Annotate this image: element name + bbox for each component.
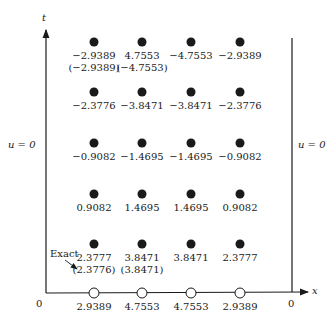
grid-node-dot: [236, 38, 245, 47]
origin-right-label: 0: [288, 298, 294, 309]
initial-node-circle: [235, 288, 245, 298]
node-value-label: 3.8471: [125, 252, 160, 263]
node-value-label: −3.8471: [169, 100, 212, 111]
exact-value-label: (3.8471): [121, 264, 164, 275]
node-value-label: −4.7553: [169, 50, 212, 61]
grid-node-dot: [138, 240, 147, 249]
grid-node-dot: [236, 88, 245, 97]
initial-node-circle: [137, 288, 147, 298]
grid-node-dot: [187, 139, 196, 148]
grid-node-dot: [187, 240, 196, 249]
initial-value-label: 2.9389: [223, 301, 258, 312]
grid-node-dot: [236, 139, 245, 148]
node-value-label: −0.9082: [218, 151, 261, 162]
node-value-label: 4.7553: [125, 50, 160, 61]
node-value-label: −0.9082: [72, 151, 115, 162]
node-value-label: −2.3776: [218, 100, 261, 111]
node-value-label: −1.4695: [169, 151, 212, 162]
grid-node-dot: [138, 190, 147, 199]
grid-node-dot: [138, 139, 147, 148]
x-axis-label: x: [312, 285, 318, 296]
node-value-label: −2.9389: [72, 50, 115, 61]
grid-node-dot: [90, 88, 99, 97]
grid-node-dot: [90, 38, 99, 47]
initial-value-label: 4.7553: [174, 301, 209, 312]
exact-value-label: (−4.7553): [116, 62, 167, 73]
initial-node-circle: [186, 288, 196, 298]
node-value-label: 0.9082: [223, 202, 258, 213]
node-value-label: 3.8471: [174, 252, 209, 263]
initial-value-label: 2.9389: [77, 301, 112, 312]
exact-value-label: (2.3776): [73, 264, 116, 275]
x-axis: [46, 292, 308, 293]
grid-node-dot: [187, 190, 196, 199]
node-value-label: 0.9082: [77, 202, 112, 213]
node-value-label: −2.3776: [72, 100, 115, 111]
right-boundary-label: u = 0: [298, 139, 326, 150]
left-boundary-label: u = 0: [8, 139, 36, 150]
grid-node-dot: [138, 38, 147, 47]
grid-node-dot: [90, 190, 99, 199]
grid-node-dot: [187, 38, 196, 47]
grid-node-dot: [90, 139, 99, 148]
node-value-label: −1.4695: [120, 151, 163, 162]
grid-node-dot: [236, 190, 245, 199]
finite-difference-grid-diagram: t x 0 0 u = 0 u = 0 Exact −2.9389(−2.938…: [0, 0, 334, 327]
node-value-label: −3.8471: [120, 100, 163, 111]
node-value-label: −2.9389: [218, 50, 261, 61]
exact-value-label: (−2.9389): [68, 62, 119, 73]
node-value-label: 1.4695: [174, 202, 209, 213]
node-value-label: 2.3777: [223, 252, 258, 263]
axes-graphic: [0, 0, 334, 327]
node-value-label: 2.3777: [77, 252, 112, 263]
initial-node-circle: [89, 288, 99, 298]
node-value-label: 1.4695: [125, 202, 160, 213]
grid-node-dot: [236, 240, 245, 249]
exact-annotation: Exact: [50, 248, 79, 259]
t-axis-label: t: [42, 12, 46, 23]
grid-node-dot: [90, 240, 99, 249]
origin-left-label: 0: [36, 298, 42, 309]
initial-value-label: 4.7553: [125, 301, 160, 312]
grid-node-dot: [187, 88, 196, 97]
grid-node-dot: [138, 88, 147, 97]
